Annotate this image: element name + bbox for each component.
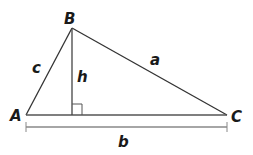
altitude-label-h: h	[77, 68, 88, 86]
side-a-line	[72, 28, 227, 115]
vertex-label-c: C	[231, 108, 242, 126]
side-label-a: a	[150, 51, 160, 69]
triangle-diagram: B A C c h a b	[0, 0, 253, 155]
vertex-label-b: B	[64, 10, 75, 28]
vertex-label-a: A	[9, 107, 22, 125]
right-angle-marker	[72, 104, 82, 115]
base-measure-label-b: b	[118, 133, 129, 151]
side-label-c: c	[32, 59, 41, 77]
